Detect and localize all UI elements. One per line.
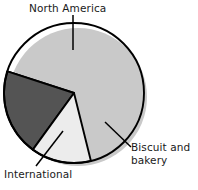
slice-label-biscuit-and-bakery: Biscuit andbakery <box>131 141 190 166</box>
slice-label-international: International <box>4 168 72 181</box>
slice-label-biscuit-line2: bakery <box>131 154 167 166</box>
pie-chart-figure: North America Biscuit andbakery Internat… <box>0 0 198 190</box>
slice-label-north-america: North America <box>29 2 106 15</box>
slice-label-biscuit-line1: Biscuit and <box>131 141 190 153</box>
